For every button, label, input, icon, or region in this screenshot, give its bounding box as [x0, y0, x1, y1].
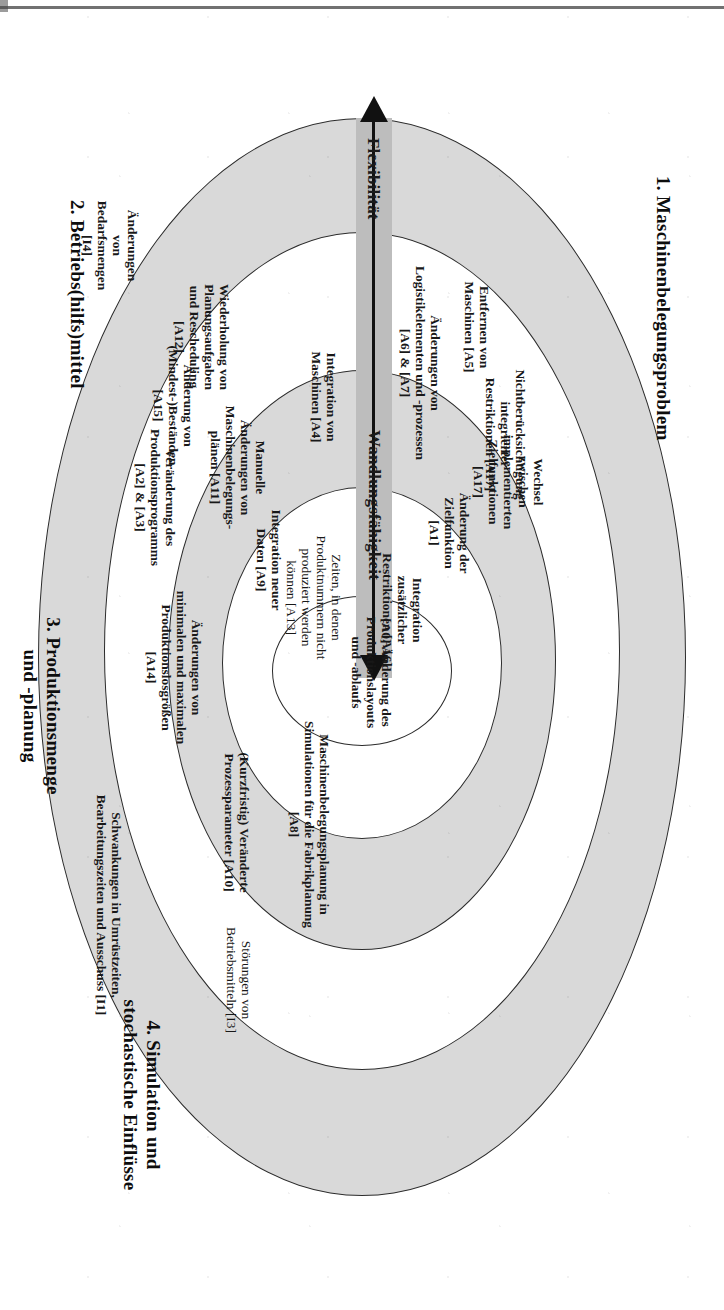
- caption-3-produktionsmenge: 3. Produktionsmenge und -planung: [18, 556, 64, 856]
- item-a8: Maschinenbelegungsplanung in Simulatione…: [287, 692, 332, 957]
- item-a6-a7: Änderungen von Logistikelementen und -pr…: [398, 228, 443, 498]
- item-a5: Entfernen von Maschinen [A5]: [462, 252, 492, 402]
- core-line-3: und -ablaufs: [349, 600, 364, 745]
- item-i4: Änderungen von Bedarfsmengen [I4]: [80, 178, 140, 313]
- caption-3-line2: und -planung: [18, 556, 41, 856]
- caption-3-line1: 3. Produktionsmenge: [41, 556, 64, 856]
- arrow-label-flexibilitaet: Flexibilität: [363, 138, 383, 220]
- item-a4: Integration von Maschinen [A4]: [309, 322, 339, 472]
- onion-diagram: Flexibilität Wandlungsfähigkeit [A0] Änd…: [0, 0, 724, 1310]
- item-a17b: Wechsel zwischen implementierten Zielfun…: [471, 418, 546, 546]
- item-a16: Integration zusätzlicher Restriktionen […: [380, 535, 425, 685]
- item-a13: Zeiten, in denen Produktnummern nicht pr…: [284, 500, 344, 695]
- caption-2-betriebshilfsmittel: 2. Betriebs(hilfs)mittel: [66, 200, 88, 389]
- item-a14: Änderungen von minimalen und maximalen P…: [144, 560, 204, 775]
- arrow-head-left: [360, 96, 388, 122]
- caption-4-simulation: 4. Simulation und stochastische Einflüss…: [118, 940, 164, 1250]
- caption-4-line1: 4. Simulation und: [141, 940, 164, 1250]
- caption-4-line2: stochastische Einflüsse: [118, 940, 141, 1250]
- item-i3: Störungen von Betriebsmitteln [I3]: [224, 890, 254, 1070]
- core-line-2: Produktionslayouts: [364, 600, 379, 745]
- caption-1-maschinenbelegungsproblem: 1. Maschinenbelegungsproblem: [652, 176, 674, 441]
